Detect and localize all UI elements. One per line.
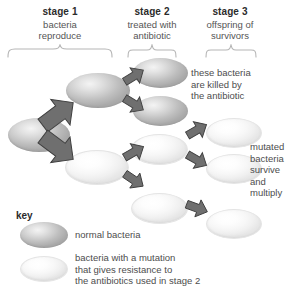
stage-1-title: stage 1: [20, 6, 100, 18]
arrow-s1-top-to-s2-b: [121, 92, 147, 116]
stage-2-title: stage 2: [112, 6, 192, 18]
annotation-mutated-survive: mutated bacteria survive and multiply: [250, 141, 298, 199]
stage-1-bracket: [6, 44, 114, 58]
annotation-killed-by-antibiotic: these bacteria are killed by the antibio…: [191, 67, 291, 102]
stage-header-1: stage 1 bacteria reproduce: [20, 6, 100, 42]
key-swatch-normal-bacteria: [20, 222, 68, 248]
stage-3-title: stage 3: [190, 6, 270, 18]
arrow-s1-bottom-to-s2-c: [121, 140, 147, 164]
arrow-ancestor-to-s1-bottom: [37, 127, 79, 169]
stage-2-subtitle: treated with antibiotic: [112, 19, 192, 42]
diagram-canvas: stage 1 bacteria reproduce stage 2 treat…: [0, 0, 298, 290]
arrow-s2-d-to-s3-c: [184, 196, 210, 220]
stage-1-subtitle: bacteria reproduce: [20, 19, 100, 42]
arrow-s1-bottom-to-s2-d: [121, 168, 147, 192]
arrow-s2-c-to-s3-a: [184, 118, 210, 142]
stage-3-bracket: [204, 44, 258, 58]
key-heading: key: [16, 210, 33, 221]
arrow-s1-top-to-s2-a: [121, 64, 147, 88]
key-swatch-mutant-bacteria: [20, 256, 68, 282]
arrow-s2-c-to-s3-b: [184, 148, 210, 172]
key-label-normal-bacteria: normal bacteria: [75, 229, 255, 241]
bacteria-cell-s2-d: [131, 193, 188, 224]
stage-2-bracket: [126, 44, 178, 58]
stage-3-subtitle: offspring of survivors: [190, 19, 270, 42]
key-label-mutant-bacteria: bacteria with a mutation that gives resi…: [75, 252, 285, 287]
stage-header-3: stage 3 offspring of survivors: [190, 6, 270, 42]
stage-header-2: stage 2 treated with antibiotic: [112, 6, 192, 42]
